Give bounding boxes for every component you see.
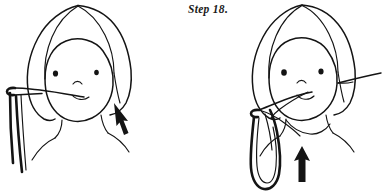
drawing-background bbox=[0, 0, 382, 195]
right-eye-left bbox=[281, 69, 287, 75]
left-eye-right bbox=[94, 70, 99, 76]
step-caption: Step 18. bbox=[188, 3, 228, 15]
left-eye-left bbox=[53, 70, 58, 76]
right-eye-right bbox=[318, 69, 323, 75]
illustration-canvas: Step 18. bbox=[0, 0, 382, 195]
illustration-drawing bbox=[0, 0, 382, 195]
